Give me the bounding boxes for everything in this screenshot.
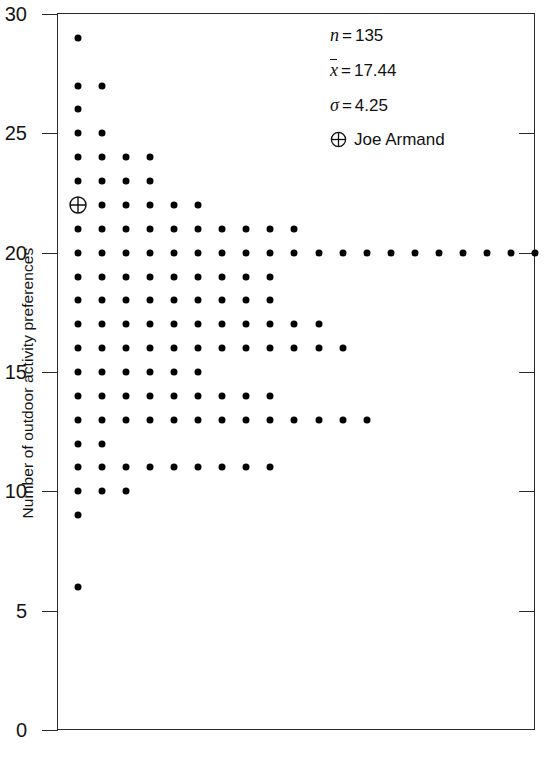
data-point bbox=[147, 273, 154, 280]
data-point bbox=[123, 225, 130, 232]
data-point bbox=[195, 297, 202, 304]
y-tick-label-25: 25 bbox=[0, 122, 35, 145]
data-point bbox=[195, 225, 202, 232]
data-point bbox=[99, 225, 106, 232]
data-point bbox=[483, 249, 490, 256]
y-tick-label-30: 30 bbox=[0, 3, 35, 26]
data-point bbox=[219, 321, 226, 328]
data-point bbox=[147, 201, 154, 208]
data-point bbox=[147, 225, 154, 232]
n-equals: = bbox=[339, 26, 355, 45]
data-point bbox=[99, 392, 106, 399]
data-point bbox=[147, 464, 154, 471]
y-tick-left-15 bbox=[42, 372, 58, 373]
data-point bbox=[123, 321, 130, 328]
data-point bbox=[99, 321, 106, 328]
y-tick-left-20 bbox=[42, 253, 58, 254]
data-point bbox=[267, 225, 274, 232]
data-point bbox=[75, 249, 82, 256]
data-point bbox=[267, 273, 274, 280]
data-point bbox=[219, 416, 226, 423]
data-point bbox=[171, 392, 178, 399]
data-point bbox=[267, 345, 274, 352]
statistics-annotations: n=135 x=17.44 σ=4.25 Joe Armand bbox=[330, 26, 445, 148]
data-point bbox=[387, 249, 394, 256]
data-point bbox=[75, 178, 82, 185]
data-point bbox=[243, 249, 250, 256]
data-point bbox=[171, 369, 178, 376]
circle-plus-icon bbox=[330, 131, 347, 148]
data-point bbox=[75, 321, 82, 328]
data-point bbox=[435, 249, 442, 256]
y-tick-right-5 bbox=[519, 611, 535, 612]
y-tick-label-text: 0 bbox=[0, 719, 35, 742]
y-tick-right-15 bbox=[519, 372, 535, 373]
data-point bbox=[75, 297, 82, 304]
data-point bbox=[75, 225, 82, 232]
data-point bbox=[75, 392, 82, 399]
data-point bbox=[267, 321, 274, 328]
data-point bbox=[243, 273, 250, 280]
data-point bbox=[243, 225, 250, 232]
data-point bbox=[339, 416, 346, 423]
data-point bbox=[75, 416, 82, 423]
data-point bbox=[147, 345, 154, 352]
data-point bbox=[75, 273, 82, 280]
data-point bbox=[75, 512, 82, 519]
data-point bbox=[171, 297, 178, 304]
y-tick-label-20: 20 bbox=[0, 241, 35, 264]
data-point bbox=[219, 273, 226, 280]
data-point bbox=[219, 392, 226, 399]
data-point bbox=[291, 321, 298, 328]
y-tick-label-text: 15 bbox=[0, 361, 35, 384]
data-point bbox=[363, 416, 370, 423]
data-point bbox=[171, 345, 178, 352]
annotation-sample-size: n=135 bbox=[330, 26, 445, 44]
data-point bbox=[195, 369, 202, 376]
data-point bbox=[147, 178, 154, 185]
data-point bbox=[315, 321, 322, 328]
data-point bbox=[459, 249, 466, 256]
data-point bbox=[99, 178, 106, 185]
data-point bbox=[75, 583, 82, 590]
data-point bbox=[267, 249, 274, 256]
data-point bbox=[147, 297, 154, 304]
data-point bbox=[123, 345, 130, 352]
data-point bbox=[195, 392, 202, 399]
data-point bbox=[219, 225, 226, 232]
y-tick-left-30 bbox=[42, 14, 58, 15]
legend-entry-highlighted-point: Joe Armand bbox=[330, 131, 445, 148]
y-tick-left-25 bbox=[42, 133, 58, 134]
data-point bbox=[123, 297, 130, 304]
data-point bbox=[75, 82, 82, 89]
data-point bbox=[99, 154, 106, 161]
data-point bbox=[243, 464, 250, 471]
data-point bbox=[195, 416, 202, 423]
data-point bbox=[123, 201, 130, 208]
data-point bbox=[123, 178, 130, 185]
data-point bbox=[291, 345, 298, 352]
data-point bbox=[243, 297, 250, 304]
data-point bbox=[99, 273, 106, 280]
data-point bbox=[147, 416, 154, 423]
y-tick-label-0: 0 bbox=[0, 719, 35, 742]
data-point bbox=[171, 249, 178, 256]
data-point bbox=[315, 345, 322, 352]
data-point bbox=[507, 249, 514, 256]
data-point bbox=[99, 464, 106, 471]
y-tick-label-text: 5 bbox=[0, 599, 35, 622]
data-point bbox=[99, 130, 106, 137]
y-tick-label-text: 10 bbox=[0, 480, 35, 503]
data-point bbox=[123, 273, 130, 280]
y-tick-left-0 bbox=[42, 730, 58, 731]
data-point bbox=[147, 321, 154, 328]
data-point bbox=[123, 488, 130, 495]
data-point bbox=[195, 321, 202, 328]
data-point bbox=[99, 440, 106, 447]
data-point bbox=[531, 249, 538, 256]
data-point bbox=[75, 34, 82, 41]
sigma-equals: = bbox=[339, 96, 355, 115]
data-point bbox=[99, 297, 106, 304]
mean-equals: = bbox=[338, 61, 354, 80]
y-tick-left-10 bbox=[42, 491, 58, 492]
